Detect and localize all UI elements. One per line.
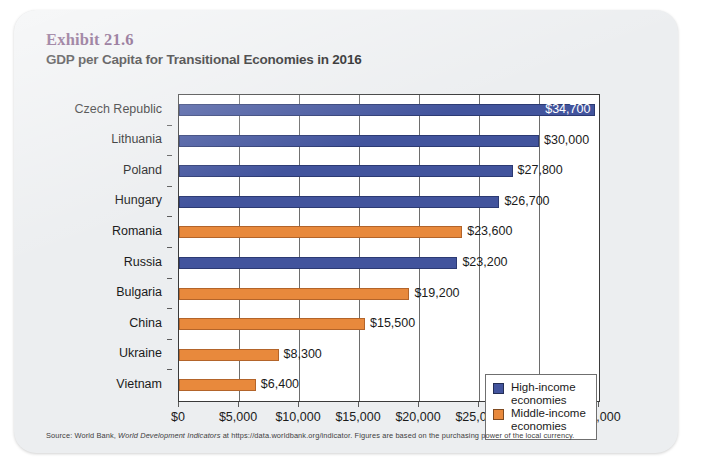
category-label: China	[14, 316, 162, 330]
exhibit-card: Exhibit 21.6 GDP per Capita for Transiti…	[14, 10, 678, 453]
exhibit-number: Exhibit 21.6	[46, 30, 134, 50]
category-tick	[167, 216, 172, 217]
bar-row: $19,200	[179, 279, 599, 310]
category-label: Vietnam	[14, 377, 162, 391]
bar-romania	[179, 226, 462, 238]
bar-value-label: $27,800	[518, 163, 563, 177]
category-axis: Czech RepublicLithuaniaPolandHungaryRoma…	[14, 94, 172, 402]
value-tick-label: $0	[171, 410, 185, 424]
value-tick	[178, 402, 179, 407]
bar-bulgaria	[179, 288, 409, 300]
category-label: Lithuania	[14, 132, 162, 146]
value-tick	[478, 402, 479, 407]
bar-ukraine	[179, 349, 279, 361]
value-tick-label: $5,000	[219, 410, 257, 424]
category-tick	[167, 369, 172, 370]
value-tick	[238, 402, 239, 407]
bar-value-label: $34,700	[545, 102, 590, 116]
legend-swatch-high	[493, 383, 504, 394]
bar-row: $34,700	[179, 95, 599, 126]
legend-item: High-incomeeconomies	[493, 381, 586, 406]
bar-russia	[179, 257, 457, 269]
bar-row: $23,200	[179, 248, 599, 279]
exhibit-title: GDP per Capita for Transitional Economie…	[46, 52, 362, 67]
category-label: Czech Republic	[14, 102, 162, 116]
bar-row: $30,000	[179, 126, 599, 157]
bar-lithuania	[179, 135, 539, 147]
category-label: Poland	[14, 163, 162, 177]
legend-label: Middle-incomeeconomies	[511, 407, 586, 432]
bar-row: $8,300	[179, 340, 599, 371]
legend-label: High-incomeeconomies	[511, 381, 576, 406]
bar-china	[179, 318, 365, 330]
value-tick	[358, 402, 359, 407]
category-tick	[167, 339, 172, 340]
value-tick-label: $20,000	[395, 410, 440, 424]
bar-row: $23,600	[179, 217, 599, 248]
category-label: Bulgaria	[14, 285, 162, 299]
bar-value-label: $23,600	[467, 224, 512, 238]
bar-value-label: $30,000	[544, 133, 589, 147]
bar-value-label: $19,200	[414, 286, 459, 300]
bar-hungary	[179, 196, 499, 208]
category-label: Russia	[14, 255, 162, 269]
value-tick-label: $10,000	[275, 410, 320, 424]
category-tick	[167, 186, 172, 187]
bar-czech-republic	[179, 104, 595, 116]
category-tick	[167, 308, 172, 309]
plot-area: $34,700$30,000$27,800$26,700$23,600$23,2…	[178, 94, 600, 402]
value-tick	[598, 402, 599, 407]
bar-poland	[179, 165, 513, 177]
category-label: Hungary	[14, 193, 162, 207]
value-tick	[298, 402, 299, 407]
bar-chart: Czech RepublicLithuaniaPolandHungaryRoma…	[14, 72, 678, 422]
bar-row: $26,700	[179, 187, 599, 218]
value-tick-label: $15,000	[335, 410, 380, 424]
category-tick	[167, 125, 172, 126]
legend-swatch-middle	[493, 409, 504, 420]
bar-value-label: $8,300	[284, 347, 322, 361]
category-tick	[167, 155, 172, 156]
bar-row: $27,800	[179, 156, 599, 187]
value-tick	[418, 402, 419, 407]
bar-value-label: $15,500	[370, 316, 415, 330]
source-note: Source: World Bank, World Development In…	[46, 431, 574, 440]
bar-row: $15,500	[179, 309, 599, 340]
category-label: Romania	[14, 224, 162, 238]
legend-item: Middle-incomeeconomies	[493, 407, 586, 432]
bar-value-label: $26,700	[504, 194, 549, 208]
bar-vietnam	[179, 379, 256, 391]
category-tick	[167, 247, 172, 248]
bar-value-label: $6,400	[261, 377, 299, 391]
category-tick	[167, 278, 172, 279]
bar-value-label: $23,200	[462, 255, 507, 269]
category-label: Ukraine	[14, 346, 162, 360]
